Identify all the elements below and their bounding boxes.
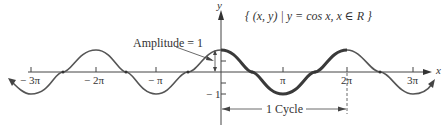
- amplitude-label: Amplitude = 1: [133, 37, 203, 49]
- x-tick-label-neg-3pi: − 3π: [20, 75, 40, 86]
- x-tick-label-2pi: 2π: [341, 75, 352, 86]
- x-tick-label-3pi: 3π: [407, 75, 418, 86]
- x-tick-label-pi: π: [280, 75, 286, 86]
- amplitude-pointer-arrow-icon: [206, 56, 214, 61]
- set-notation: { (x, y) | y = cos x, x ∈ R }: [245, 10, 372, 22]
- x-ticks: [31, 67, 413, 72]
- y-axis-arrow-icon: [218, 10, 224, 20]
- x-axis-arrow-icon: [423, 69, 432, 75]
- x-tick-label-neg-pi: − π: [148, 75, 163, 86]
- cycle-label: 1 Cycle: [266, 103, 303, 115]
- x-axis-label: x: [436, 65, 441, 76]
- y-tick-label-neg-1: − 1: [206, 89, 220, 100]
- y-axis-label: y: [217, 0, 222, 11]
- cycle-arrow-right-icon: [338, 107, 346, 112]
- amplitude-arrow-down-icon: [213, 67, 217, 72]
- set-notation-text: { (x, y) | y = cos x, x ∈ R }: [245, 9, 372, 23]
- cosine-graph: [0, 0, 445, 125]
- x-tick-label-neg-2pi: − 2π: [84, 75, 104, 86]
- cycle-arrow-left-icon: [222, 107, 230, 112]
